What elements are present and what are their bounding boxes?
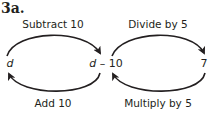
arrows-diagram [0, 0, 210, 126]
arrow-subtract-10 [7, 35, 100, 56]
arrow-add-10 [9, 73, 100, 91]
arrow-divide-by-5 [112, 35, 204, 56]
arrow-multiply-by-5 [113, 73, 205, 91]
